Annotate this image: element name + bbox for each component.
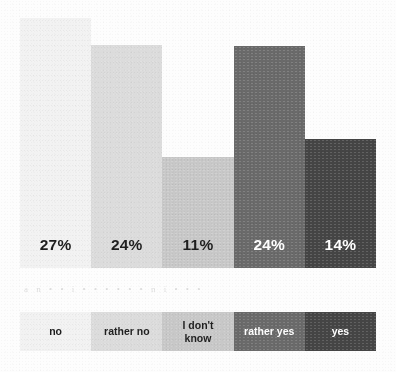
bar-no: 27% [20, 18, 91, 268]
legend-item-rather-no: rather no [91, 312, 162, 351]
bar-value-label: 24% [91, 236, 162, 254]
legend-band: no rather no I don't know rather yes yes [20, 312, 376, 351]
bar-value-label: 14% [305, 236, 376, 254]
bar-i-dont-know: 11% [162, 157, 233, 268]
legend-item-yes: yes [305, 312, 376, 351]
bar-rather-no: 24% [91, 45, 162, 268]
bar-value-label: 24% [234, 236, 305, 254]
bar-yes: 14% [305, 139, 376, 268]
legend-label: rather no [104, 325, 150, 337]
legend-item-rather-yes: rather yes [234, 312, 305, 351]
bar-chart-figure: a n • • i • • • • • • n i • • • 27% 24% … [0, 0, 396, 372]
bar-rather-yes: 24% [234, 46, 305, 268]
legend-label: I don't know [182, 319, 213, 344]
bar-value-label: 11% [162, 236, 233, 254]
legend-label: no [49, 325, 62, 337]
legend-item-i-dont-know: I don't know [162, 312, 233, 351]
plot-area: 27% 24% 11% 24% 14% [20, 18, 376, 268]
bar-texture [234, 46, 305, 268]
legend-label: rather yes [244, 325, 294, 337]
bar-texture [91, 45, 162, 268]
scan-showthrough-text: a n • • i • • • • • • n i • • • [24, 284, 203, 294]
legend-item-no: no [20, 312, 91, 351]
legend-label: yes [332, 325, 350, 337]
bar-value-label: 27% [20, 236, 91, 254]
bar-texture [20, 18, 91, 268]
